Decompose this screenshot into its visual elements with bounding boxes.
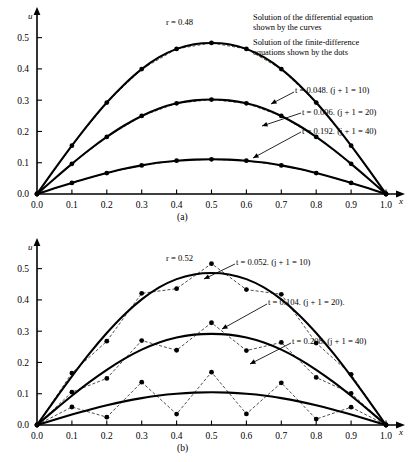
data-point — [279, 340, 284, 345]
y-axis-label-a: u — [28, 11, 33, 22]
data-point — [139, 163, 144, 168]
x-tick-label: 0.1 — [66, 200, 78, 210]
leader-line — [250, 343, 291, 364]
data-point — [209, 41, 214, 46]
panel-a: 0.00.10.20.30.40.50.60.70.80.91.00.00.10… — [0, 0, 418, 231]
x-tick-label: 0.8 — [310, 200, 322, 210]
data-point — [104, 415, 109, 420]
data-point — [139, 338, 144, 343]
curve-label-b-1: t = 0.052. (j + 1 = 10) — [236, 257, 310, 267]
panel-b: 0.00.10.20.30.40.50.60.70.80.91.00.00.10… — [0, 231, 418, 462]
x-tick-label: 0.8 — [310, 431, 322, 441]
y-tick-label: 0.4 — [17, 295, 29, 305]
analytic-curve — [37, 334, 386, 425]
y-tick-label: 0.4 — [17, 64, 29, 74]
caption-a: (a) — [177, 212, 188, 223]
x-tick-label: 0.7 — [275, 431, 287, 441]
r-value-label-b: r = 0.52 — [166, 253, 193, 263]
analytic-curve — [37, 273, 386, 425]
x-tick-label: 0.4 — [171, 200, 183, 210]
y-tick-label: 0.3 — [17, 327, 29, 337]
data-point — [139, 380, 144, 385]
x-tick-label: 0.2 — [101, 200, 113, 210]
data-point — [70, 371, 75, 376]
data-point — [139, 67, 144, 72]
data-point — [314, 171, 319, 176]
data-point — [209, 261, 214, 266]
data-point — [174, 286, 179, 291]
finite-difference-polyline — [37, 43, 386, 194]
data-point — [209, 97, 214, 102]
x-tick-label: 0.4 — [171, 431, 183, 441]
x-tick-label: 1.0 — [380, 431, 392, 441]
x-tick-label: 0.6 — [240, 200, 252, 210]
x-tick-label: 0.7 — [275, 200, 287, 210]
leader-line — [253, 132, 301, 158]
data-point — [104, 376, 109, 381]
x-axis-label-b: x — [399, 427, 403, 438]
data-point — [209, 370, 214, 375]
legend-line-1: Solution of the differential equation — [253, 13, 373, 23]
plot-b: 0.00.10.20.30.40.50.60.70.80.91.00.00.10… — [0, 231, 418, 462]
y-tick-label: 0.3 — [17, 96, 29, 106]
curve-label-a-1: t = 0.048. (j + 1 = 10) — [295, 85, 369, 95]
data-point — [314, 417, 319, 422]
data-point — [349, 143, 354, 148]
data-point — [244, 158, 249, 163]
data-point — [104, 100, 109, 105]
data-point — [174, 348, 179, 353]
data-point — [174, 412, 179, 417]
data-point — [384, 423, 389, 428]
x-tick-label: 0.9 — [345, 431, 357, 441]
y-tick-label: 0.5 — [17, 33, 29, 43]
data-point — [70, 180, 75, 185]
data-point — [244, 101, 249, 106]
y-tick-label: 0.2 — [17, 127, 29, 137]
leader-line — [222, 304, 267, 329]
data-point — [349, 405, 354, 410]
curve-label-b-2: t = 0.104. (j + 1 = 20). — [268, 297, 345, 307]
data-point — [349, 391, 354, 396]
y-tick-label: 0.5 — [17, 264, 29, 274]
x-axis-label-a: x — [399, 196, 403, 207]
legend-line-4: equations shown by the dots — [253, 48, 348, 58]
data-point — [349, 372, 354, 377]
data-point — [349, 180, 354, 185]
data-point — [349, 161, 354, 166]
data-point — [70, 161, 75, 166]
x-tick-label: 0.2 — [101, 431, 113, 441]
data-point — [174, 158, 179, 163]
x-tick-label: 0.1 — [66, 431, 78, 441]
data-point — [244, 46, 249, 51]
x-tick-label: 0.6 — [240, 431, 252, 441]
r-value-label-a: r = 0.48 — [166, 17, 193, 27]
data-point — [279, 163, 284, 168]
x-tick-label: 0.5 — [206, 431, 218, 441]
data-point — [35, 192, 40, 197]
y-tick-label: 0.0 — [17, 420, 29, 430]
data-point — [104, 135, 109, 140]
data-point — [139, 291, 144, 296]
y-tick-label: 0.0 — [17, 189, 29, 199]
data-point — [314, 375, 319, 380]
data-point — [244, 287, 249, 292]
x-tick-label: 0.3 — [136, 200, 148, 210]
x-tick-label: 0.3 — [136, 431, 148, 441]
data-point — [104, 171, 109, 176]
legend-line-3: Solution of the finite-difference — [253, 38, 359, 48]
finite-difference-polyline — [37, 159, 386, 194]
curve-label-a-3: t = 0.192. (j + 1 = 40) — [302, 126, 376, 136]
y-tick-label: 0.1 — [17, 158, 29, 168]
caption-b: (b) — [177, 443, 188, 454]
x-tick-label: 0.5 — [206, 200, 218, 210]
curve-label-a-2: t = 0.096. (j + 1 = 20) — [302, 107, 376, 117]
data-point — [279, 292, 284, 297]
x-tick-label: 1.0 — [380, 200, 392, 210]
data-point — [384, 192, 389, 197]
data-point — [209, 320, 214, 325]
data-point — [104, 339, 109, 344]
data-point — [279, 67, 284, 72]
data-point — [314, 100, 319, 105]
data-point — [70, 390, 75, 395]
leader-arrowhead — [262, 122, 268, 127]
